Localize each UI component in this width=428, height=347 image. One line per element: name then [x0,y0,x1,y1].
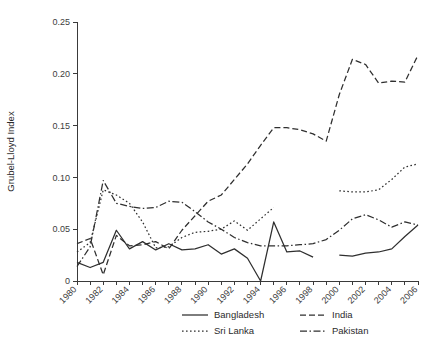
y-tick-label: 0 [65,276,70,286]
x-tick-label: 1998 [293,284,314,305]
series-line-sri-lanka [77,190,274,252]
series-line-pakistan [77,181,418,267]
x-tick-label: 2002 [346,284,367,305]
x-tick-label: 1992 [215,284,236,305]
legend-item-bangladesh: Bangladesh [182,309,264,320]
series-line-bangladesh [77,222,313,281]
x-tick-label: 1994 [241,284,262,305]
legend-item-india: India [300,309,353,320]
y-axis-ticks: 00.050.100.150.200.25 [52,17,77,286]
series-line-india [77,55,418,275]
grubel-lloyd-index-line-chart: Grubel-Lloyd Index 00.050.100.150.200.25… [0,0,428,347]
x-tick-label: 2006 [398,284,419,305]
legend-label: India [332,309,353,320]
x-tick-label: 2004 [372,284,393,305]
x-tick-label: 1996 [267,284,288,305]
x-tick-label: 1984 [110,284,131,305]
x-tick-label: 1980 [57,284,78,305]
y-tick-label: 0.10 [52,173,70,183]
x-tick-label: 1982 [83,284,104,305]
y-tick-label: 0.15 [52,121,70,131]
y-axis-title: Grubel-Lloyd Index [5,111,16,192]
x-tick-label: 1990 [188,284,209,305]
legend-label: Sri Lanka [214,325,255,336]
y-tick-label: 0.05 [52,224,70,234]
legend-label: Bangladesh [214,309,264,320]
chart-legend: BangladeshIndiaSri LankaPakistan [182,309,368,336]
x-tick-label: 1988 [162,284,183,305]
legend-item-pakistan: Pakistan [300,325,368,336]
x-tick-label: 1986 [136,284,157,305]
chart-container: Grubel-Lloyd Index 00.050.100.150.200.25… [0,0,428,347]
y-axis-label: Grubel-Lloyd Index [5,111,16,192]
legend-label: Pakistan [332,325,368,336]
legend-item-sri-lanka: Sri Lanka [182,325,255,336]
series-line-sri-lanka [339,164,418,192]
y-tick-label: 0.20 [52,69,70,79]
data-series [77,55,418,281]
series-line-bangladesh [339,225,418,256]
y-tick-label: 0.25 [52,17,70,27]
x-tick-label: 2000 [319,284,340,305]
x-axis-ticks: 1980198219841986198819901992199419961998… [57,281,419,306]
